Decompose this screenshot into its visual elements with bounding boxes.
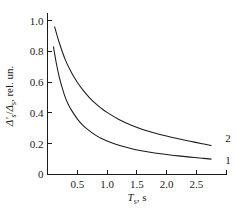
- x-tick-label: 1.0: [100, 178, 114, 190]
- data-series-group: [53, 27, 211, 159]
- y-tick-label: 0.6: [30, 76, 44, 88]
- curve-series-1: [53, 47, 211, 159]
- chart-plot: 00.51.01.52.02.5 0.20.40.60.81.0 2 1 Ts,…: [0, 0, 242, 212]
- series-label-1: 1: [225, 154, 231, 166]
- svg-text:Δ′s/Δs, rel. un.: Δ′s/Δs, rel. un.: [3, 65, 18, 127]
- x-tick-label: 2.5: [189, 178, 203, 190]
- figure-container: 00.51.01.52.02.5 0.20.40.60.81.0 2 1 Ts,…: [0, 0, 242, 212]
- x-tick-label: 0.5: [70, 178, 84, 190]
- x-axis-title: Ts, s: [128, 191, 147, 206]
- y-tick-label: 0.8: [30, 45, 44, 57]
- series-labels: 2 1: [225, 132, 231, 166]
- x-tick-label: 2.0: [160, 178, 174, 190]
- y-axis-ticks: [48, 21, 53, 144]
- y-axis-tick-labels: 0.20.40.60.81.0: [30, 15, 44, 150]
- curve-series-2: [55, 27, 211, 146]
- series-label-2: 2: [225, 132, 231, 144]
- x-tick-label: 1.5: [130, 178, 144, 190]
- y-tick-label: 1.0: [30, 15, 44, 27]
- y-axis-title: Δ′s/Δs, rel. un.: [3, 65, 18, 127]
- x-tick-label: 0: [38, 168, 44, 180]
- x-axis-ticks: [77, 170, 226, 175]
- x-axis-tick-labels: 00.51.01.52.02.5: [38, 168, 204, 190]
- y-tick-label: 0.2: [30, 138, 44, 150]
- svg-text:Ts, s: Ts, s: [128, 191, 147, 206]
- y-tick-label: 0.4: [30, 107, 44, 119]
